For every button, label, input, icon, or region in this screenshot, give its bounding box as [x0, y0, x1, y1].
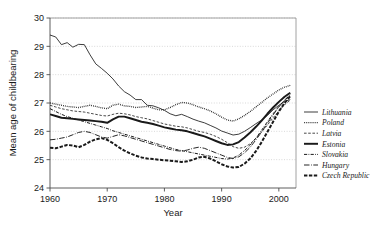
- x-tick-label: 1980: [154, 194, 174, 204]
- legend-label-estonia: Estonia: [321, 140, 345, 149]
- legend-label-lithuania: Lithuania: [321, 108, 352, 117]
- chart-canvas: 2425262728293019601970198019902000YearMe…: [0, 0, 382, 226]
- y-tick-label: 26: [34, 127, 44, 137]
- legend-label-poland: Poland: [321, 118, 344, 127]
- y-tick-label: 28: [34, 70, 44, 80]
- y-tick-label: 25: [34, 155, 44, 165]
- chart-figure: 2425262728293019601970198019902000YearMe…: [0, 0, 382, 226]
- y-tick-label: 27: [34, 98, 44, 108]
- y-axis-title: Mean age of childbearing: [7, 50, 18, 157]
- x-tick-label: 1970: [97, 194, 117, 204]
- y-tick-label: 30: [34, 13, 44, 23]
- legend-label-latvia: Latvia: [321, 129, 342, 138]
- series-line-hungary: [50, 95, 290, 159]
- x-tick-label: 1990: [212, 194, 232, 204]
- legend-label-slovakia: Slovakia: [322, 150, 348, 159]
- legend-label-czech-republic: Czech Republic: [322, 171, 370, 180]
- series-line-estonia: [50, 93, 290, 145]
- legend-label-hungary: Hungary: [321, 161, 350, 170]
- x-tick-label: 1960: [40, 194, 60, 204]
- y-tick-label: 29: [34, 42, 44, 52]
- x-tick-label: 2000: [269, 194, 289, 204]
- y-tick-label: 24: [34, 183, 44, 193]
- x-axis-title: Year: [163, 207, 182, 218]
